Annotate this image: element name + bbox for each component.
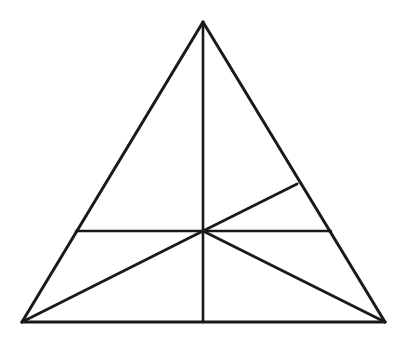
figure-background [0,0,412,343]
geometric-figure [0,0,412,343]
